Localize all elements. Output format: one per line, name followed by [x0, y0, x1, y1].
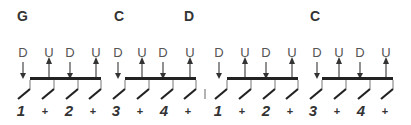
slash-icon: [334, 89, 346, 99]
down-arrowhead-icon: [20, 73, 26, 79]
down-strum-label: D: [260, 45, 272, 60]
and-count: +: [38, 105, 52, 117]
up-strum-label: U: [286, 45, 298, 60]
beam-bar: [227, 77, 298, 80]
down-strum-label: D: [64, 45, 76, 60]
up-strum-label: U: [90, 45, 102, 60]
and-count: +: [283, 105, 297, 117]
beat-count: 1: [14, 102, 28, 119]
slash-icon: [286, 89, 298, 99]
up-strum-label: U: [380, 45, 392, 60]
chord-label: C: [114, 8, 124, 24]
and-count: +: [378, 105, 392, 117]
slash-icon: [42, 89, 54, 99]
down-strum-label: D: [213, 45, 225, 60]
down-strum-label: D: [157, 45, 169, 60]
and-count: +: [235, 105, 249, 117]
up-strum-label: U: [333, 45, 345, 60]
slash-icon: [215, 89, 227, 99]
beat-count: 2: [62, 102, 76, 119]
beat-count: 4: [157, 102, 171, 119]
down-strum-label: D: [112, 45, 124, 60]
down-strum-label: D: [311, 45, 323, 60]
and-count: +: [133, 105, 147, 117]
slash-icon: [239, 89, 251, 99]
chord-label: D: [184, 8, 194, 24]
slash-icon: [358, 89, 370, 99]
down-arrowhead-icon: [115, 73, 121, 79]
slash-icon: [161, 89, 173, 99]
slash-icon: [66, 89, 78, 99]
and-count: +: [86, 105, 100, 117]
down-arrowhead-icon: [216, 73, 222, 79]
beat-count: 3: [109, 102, 123, 119]
down-arrowhead-icon: [314, 73, 320, 79]
down-strum-label: D: [354, 45, 366, 60]
up-strum-label: U: [136, 45, 148, 60]
and-count: +: [330, 105, 344, 117]
beam-bar: [322, 77, 393, 80]
beat-count: 3: [306, 102, 320, 119]
up-strum-label: U: [184, 45, 196, 60]
slash-icon: [263, 89, 275, 99]
down-strum-label: D: [17, 45, 29, 60]
slash-icon: [113, 89, 125, 99]
chord-label: G: [17, 8, 28, 24]
beam-bar: [125, 77, 196, 80]
slash-icon: [381, 89, 393, 99]
up-strum-label: U: [239, 45, 251, 60]
slash-icon: [18, 89, 30, 99]
up-strum-label: U: [43, 45, 55, 60]
slash-icon: [310, 89, 322, 99]
and-count: +: [181, 105, 195, 117]
slash-icon: [137, 89, 149, 99]
beat-count: 4: [354, 102, 368, 119]
beam-bar: [30, 77, 101, 80]
beat-count: 2: [259, 102, 273, 119]
beat-count: 1: [211, 102, 225, 119]
slash-icon: [184, 89, 196, 99]
slash-icon: [89, 89, 101, 99]
chord-label: C: [310, 8, 320, 24]
